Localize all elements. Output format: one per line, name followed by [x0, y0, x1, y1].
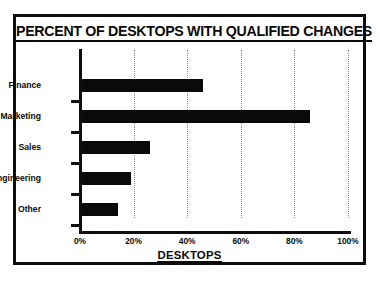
y-axis-tick: [71, 193, 80, 196]
chart-title-text: PERCENT OF DESKTOPS WITH QUALIFIED CHANG…: [16, 23, 372, 42]
y-axis-tick: [71, 162, 80, 165]
bar-engineering: [80, 172, 131, 185]
chart-frame: PERCENT OF DESKTOPS WITH QUALIFIED CHANG…: [13, 14, 366, 265]
chart-title: PERCENT OF DESKTOPS WITH QUALIFIED CHANG…: [16, 23, 363, 42]
x-axis-title-text: DESKTOPS: [157, 249, 221, 263]
x-axis-title: DESKTOPS: [16, 249, 363, 263]
y-axis-tick: [71, 224, 80, 227]
bar-sales: [80, 141, 150, 154]
y-axis-line: [79, 49, 82, 233]
bar-other: [80, 203, 118, 216]
x-tick-label-40%: 40%: [164, 236, 210, 246]
bars-layer: [80, 50, 348, 218]
category-label-finance: Finance: [0, 80, 41, 90]
category-label-other: Other: [0, 204, 41, 214]
plot-area: [80, 50, 348, 218]
bar-finance: [80, 79, 203, 92]
bar-marketing: [80, 110, 310, 123]
y-axis-tick: [71, 100, 80, 103]
x-tick-label-20%: 20%: [111, 236, 157, 246]
x-axis-line: [79, 231, 351, 234]
category-label-marketing: Marketing: [0, 111, 41, 121]
x-tick-label-100%: 100%: [325, 236, 371, 246]
category-label-sales: Sales: [0, 142, 41, 152]
category-label-engineering: Engineering: [0, 173, 41, 183]
x-tick-label-60%: 60%: [218, 236, 264, 246]
x-tick-label-0%: 0%: [57, 236, 103, 246]
gridline-100%: [348, 50, 349, 218]
x-tick-label-80%: 80%: [271, 236, 317, 246]
y-axis-tick: [71, 131, 80, 134]
